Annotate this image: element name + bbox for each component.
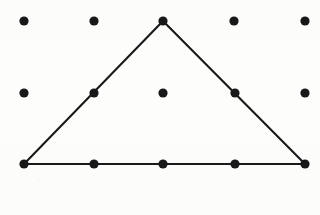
lattice-point-r2c4[interactable] xyxy=(300,159,309,168)
lattice-point-r2c1[interactable] xyxy=(89,159,98,168)
lattice-point-r2c3[interactable] xyxy=(230,159,239,168)
lattice-point-r1c4[interactable] xyxy=(300,88,309,97)
lattice-point-r0c0[interactable] xyxy=(19,16,28,25)
lattice-point-r2c2[interactable] xyxy=(158,159,167,168)
figure-background xyxy=(0,0,320,215)
geoboard-figure xyxy=(0,0,320,215)
lattice-point-r0c4[interactable] xyxy=(300,16,309,25)
lattice-point-r1c2[interactable] xyxy=(158,88,167,97)
lattice-point-r2c0[interactable] xyxy=(19,159,28,168)
lattice-point-r0c1[interactable] xyxy=(89,16,98,25)
lattice-point-r1c1[interactable] xyxy=(89,88,98,97)
lattice-point-r1c0[interactable] xyxy=(19,88,28,97)
lattice-point-r0c2[interactable] xyxy=(158,16,167,25)
geoboard-canvas xyxy=(0,0,320,215)
lattice-point-r0c3[interactable] xyxy=(229,16,238,25)
lattice-point-r1c3[interactable] xyxy=(230,88,239,97)
